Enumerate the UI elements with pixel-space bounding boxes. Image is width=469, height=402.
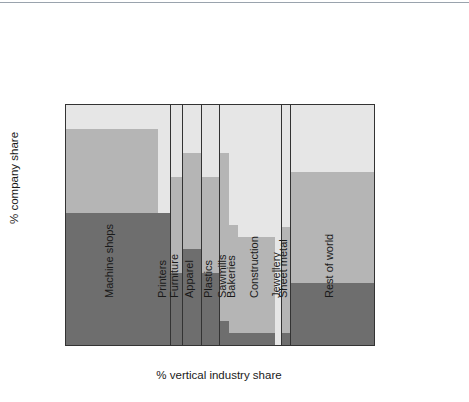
x-tick-mark (128, 345, 129, 346)
mekko-segment (171, 273, 183, 345)
x-tick-mark (374, 345, 375, 346)
mekko-column (66, 105, 158, 345)
mekko-segment (66, 105, 158, 129)
mekko-segment (158, 213, 170, 345)
mekko-segment (66, 213, 158, 345)
mekko-segment (183, 153, 201, 249)
plot-inner (66, 105, 374, 345)
x-tick-mark (66, 345, 67, 346)
y-axis-title: % company share (8, 132, 20, 224)
mekko-segment (238, 333, 275, 345)
mekko-segment (291, 105, 374, 172)
x-tick-mark (189, 345, 190, 346)
figure-top-rule (0, 2, 469, 3)
mekko-column (229, 105, 238, 345)
mekko-segment (183, 249, 201, 345)
mekko-column (202, 105, 220, 345)
y-tick-mark (65, 249, 66, 250)
mekko-segment (202, 177, 220, 273)
mekko-segment (291, 283, 374, 345)
chart-figure: % company share % vertical industry shar… (0, 0, 469, 402)
mekko-column (220, 105, 229, 345)
x-tick-mark (312, 345, 313, 346)
x-axis-title: % vertical industry share (65, 369, 373, 381)
mekko-segment (238, 105, 275, 237)
mekko-segment (66, 129, 158, 213)
mekko-segment (171, 105, 183, 177)
mekko-segment (158, 105, 170, 213)
mekko-column (291, 105, 374, 345)
mekko-column (171, 105, 183, 345)
x-tick-mark (251, 345, 252, 346)
mekko-segment (291, 172, 374, 282)
mekko-segment (202, 273, 220, 345)
mekko-column (238, 105, 275, 345)
y-tick-mark (65, 297, 66, 298)
y-tick-mark (65, 201, 66, 202)
mekko-segment (171, 177, 183, 273)
mekko-column (282, 105, 291, 345)
figure-bottom-rule (0, 400, 469, 401)
y-tick-mark (65, 153, 66, 154)
mekko-segment (183, 105, 201, 153)
mekko-segment (238, 237, 275, 333)
mekko-segment (202, 105, 220, 177)
plot-area: 20406080100 020406080100 (65, 104, 375, 346)
mekko-column (183, 105, 201, 345)
y-tick-mark (65, 105, 66, 106)
mekko-column (158, 105, 170, 345)
